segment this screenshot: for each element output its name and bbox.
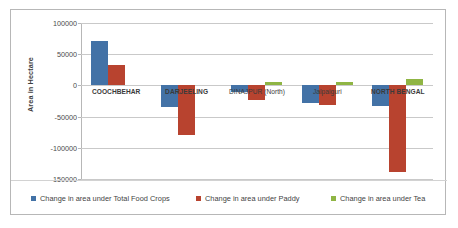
bar-group <box>292 23 362 179</box>
y-axis-tick-label: 100000 <box>53 19 77 28</box>
legend-swatch-icon <box>31 196 36 201</box>
bar-group <box>363 23 433 179</box>
bar-group <box>151 23 221 179</box>
bar[interactable] <box>108 65 125 86</box>
plot-area: Area in Hectare 100000500000-50000-10000… <box>11 10 447 180</box>
legend-item-total-food-crops[interactable]: Change in area under Total Food Crops <box>31 194 170 203</box>
y-axis-ticks: 100000500000-50000-100000-150000 <box>29 10 81 180</box>
y-axis-tick-label: -100000 <box>51 143 77 152</box>
legend-swatch-icon <box>196 196 201 201</box>
x-axis-category-label: COOCHBEHAR <box>92 88 141 95</box>
legend-swatch-icon <box>331 196 336 201</box>
chart-legend: Change in area under Total Food Crops Ch… <box>11 181 447 215</box>
legend-label: Change in area under Tea <box>340 194 425 203</box>
x-axis-category-label: NORTH BENGAL <box>371 88 425 95</box>
bar[interactable] <box>91 41 108 85</box>
x-axis-category-label: Jalpaiguri <box>313 88 342 95</box>
legend-item-paddy[interactable]: Change in area under Paddy <box>196 194 300 203</box>
legend-label: Change in area under Total Food Crops <box>40 194 170 203</box>
chart-container: Area in Hectare 100000500000-50000-10000… <box>10 9 446 215</box>
y-axis-tick-label: 50000 <box>57 50 77 59</box>
plot-canvas: COOCHBEHARDARJEELINGDINAJPUR (North)Jalp… <box>81 23 433 179</box>
bar[interactable] <box>265 82 282 85</box>
y-axis-tick-label: 0 <box>73 81 77 90</box>
bar-group <box>81 23 151 179</box>
legend-label: Change in area under Paddy <box>205 194 300 203</box>
bar[interactable] <box>336 82 353 86</box>
bar[interactable] <box>406 79 423 86</box>
bar[interactable] <box>389 85 406 172</box>
legend-item-tea[interactable]: Change in area under Tea <box>331 194 425 203</box>
x-axis-category-label: DARJEELING <box>165 88 208 95</box>
bar-group <box>222 23 292 179</box>
y-axis-tick-label: -50000 <box>55 112 77 121</box>
x-axis-category-label: DINAJPUR (North) <box>229 88 285 95</box>
